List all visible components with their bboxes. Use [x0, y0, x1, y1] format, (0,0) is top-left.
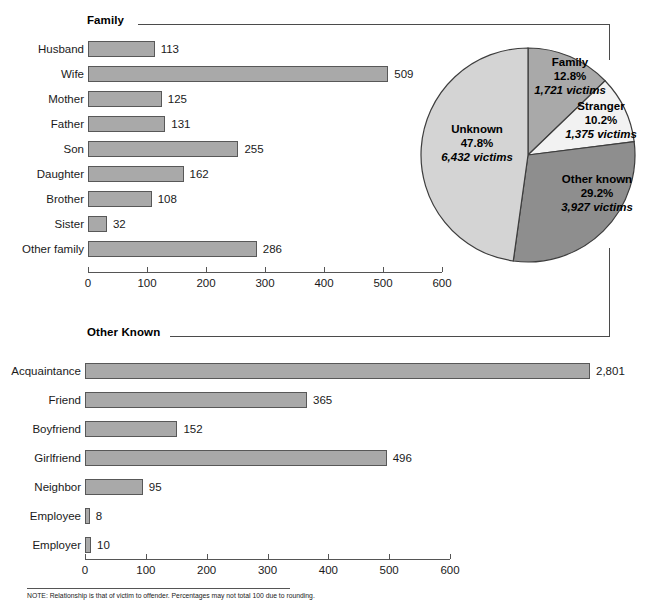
axis-tick-label: 200: [196, 277, 215, 289]
table-row: Girlfriend496: [0, 449, 650, 467]
bar-category-label: Neighbor: [0, 478, 81, 496]
pie-label-family-victims: 1,721 victims: [528, 83, 612, 97]
bar: [85, 537, 91, 553]
pie-label-other-known-percent: 29.2%: [548, 186, 646, 200]
bar: [85, 450, 387, 466]
pie-label-stranger-name: Stranger: [553, 99, 649, 113]
axis-tick-label: 0: [85, 277, 91, 289]
bar-value-label: 95: [149, 478, 162, 496]
axis-tick-label: 400: [314, 277, 333, 289]
axis-tick-label: 200: [197, 564, 216, 576]
axis-tick: [146, 554, 147, 559]
bar: [88, 191, 152, 207]
bar-category-label: Wife: [0, 65, 84, 83]
bar: [88, 166, 184, 182]
axis-tick: [207, 554, 208, 559]
axis-tick: [85, 554, 86, 559]
table-row: Employee8: [0, 507, 650, 525]
pie-label-unknown: Unknown 47.8% 6,432 victims: [428, 122, 526, 164]
axis-tick-label: 600: [432, 277, 451, 289]
other-known-connector-horizontal: [170, 336, 610, 337]
axis-tick: [206, 267, 207, 272]
bar-value-label: 10: [97, 536, 110, 554]
bar: [88, 116, 165, 132]
bar-category-label: Boyfriend: [0, 420, 81, 438]
bar: [85, 508, 90, 524]
pie-label-stranger: Stranger 10.2% 1,375 victims: [553, 99, 649, 141]
axis-tick: [88, 267, 89, 272]
bar-value-label: 152: [183, 420, 202, 438]
axis-tick-label: 300: [255, 277, 274, 289]
bar: [88, 91, 162, 107]
bar-category-label: Employer: [0, 536, 81, 554]
pie-label-stranger-victims: 1,375 victims: [553, 127, 649, 141]
axis-tick-label: 100: [136, 564, 155, 576]
axis-tick: [265, 267, 266, 272]
bar-category-label: Sister: [0, 215, 84, 233]
family-section-title: Family: [87, 14, 124, 26]
pie-label-family: Family 12.8% 1,721 victims: [528, 55, 612, 97]
pie-label-stranger-percent: 10.2%: [553, 113, 649, 127]
axis-tick-label: 500: [380, 564, 399, 576]
pie-label-unknown-victims: 6,432 victims: [428, 150, 526, 164]
table-row: Boyfriend152: [0, 420, 650, 438]
table-row: Neighbor95: [0, 478, 650, 496]
axis-tick: [389, 554, 390, 559]
axis-tick: [450, 554, 451, 559]
bar-category-label: Girlfriend: [0, 449, 81, 467]
axis-tick-label: 600: [440, 564, 459, 576]
pie-label-other-known-name: Other known: [548, 172, 646, 186]
bar-value-label: 496: [393, 449, 412, 467]
bar-value-label: 162: [190, 165, 209, 183]
axis-tick: [442, 267, 443, 272]
bar-category-label: Mother: [0, 90, 84, 108]
bar-value-label: 255: [244, 140, 263, 158]
axis-tick-label: 300: [258, 564, 277, 576]
bar-value-label: 131: [171, 115, 190, 133]
bar-category-label: Brother: [0, 190, 84, 208]
axis-tick-label: 500: [373, 277, 392, 289]
axis-tick: [328, 554, 329, 559]
bar-value-label: 8: [96, 507, 102, 525]
axis-tick-label: 400: [319, 564, 338, 576]
other-known-bar-chart: Acquaintance2,801Friend365Boyfriend152Gi…: [0, 358, 650, 578]
bar: [88, 216, 107, 232]
bar: [88, 66, 388, 82]
bar: [85, 421, 177, 437]
bar-category-label: Daughter: [0, 165, 84, 183]
axis-tick: [268, 554, 269, 559]
axis-tick: [147, 267, 148, 272]
bar-category-label: Father: [0, 115, 84, 133]
bar-category-label: Son: [0, 140, 84, 158]
bar: [88, 41, 155, 57]
pie-label-family-name: Family: [528, 55, 612, 69]
bar-value-label: 365: [313, 391, 332, 409]
axis-tick: [324, 267, 325, 272]
pie-label-family-percent: 12.8%: [528, 69, 612, 83]
bar-value-label: 509: [394, 65, 413, 83]
family-connector-horizontal: [138, 24, 610, 25]
bar: [88, 241, 257, 257]
bar-value-label: 32: [113, 215, 126, 233]
family-bar-chart: Husband113Wife509Mother125Father131Son25…: [0, 40, 460, 300]
note-text: NOTE: Relationship is that of victim to …: [27, 592, 315, 599]
bar-category-label: Employee: [0, 507, 81, 525]
table-row: Acquaintance2,801: [0, 362, 650, 380]
bar-value-label: 113: [161, 40, 179, 58]
bar-value-label: 125: [168, 90, 187, 108]
bar: [85, 392, 307, 408]
axis-tick-label: 100: [137, 277, 156, 289]
axis-tick: [383, 267, 384, 272]
bar-category-label: Friend: [0, 391, 81, 409]
bar-value-label: 286: [263, 240, 282, 258]
pie-label-unknown-percent: 47.8%: [428, 136, 526, 150]
table-row: Friend365: [0, 391, 650, 409]
table-row: Employer10: [0, 536, 650, 554]
pie-label-unknown-name: Unknown: [428, 122, 526, 136]
pie-label-other-known-victims: 3,927 victims: [548, 200, 646, 214]
pie-label-other-known: Other known 29.2% 3,927 victims: [548, 172, 646, 214]
bar-category-label: Acquaintance: [0, 362, 81, 380]
note-divider: [27, 588, 290, 589]
axis-tick-label: 0: [82, 564, 88, 576]
other-known-section-title: Other Known: [87, 326, 160, 338]
